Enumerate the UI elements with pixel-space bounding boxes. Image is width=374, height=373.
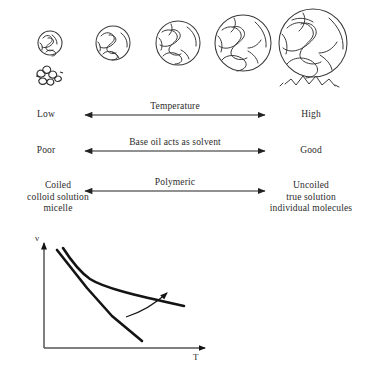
- plot-ylabel: ν: [35, 233, 39, 243]
- scale-center-label-solvency: Base oil acts as solvent: [129, 137, 221, 149]
- scale-right-label-temperature: High: [301, 109, 321, 121]
- coil-bubble-3: [156, 21, 200, 65]
- scale-left-label-line-1: Coiled: [27, 180, 89, 192]
- plot-curve-polymer-blended-oil: [63, 248, 184, 306]
- scale-center-label-temperature: Temperature: [150, 101, 200, 113]
- viscosity-temperature-plot: [44, 243, 205, 348]
- coil-bubble-1: [38, 31, 62, 56]
- scale-right-label-polymer-state: Uncoiled true solution individual molecu…: [270, 180, 352, 215]
- scale-left-label-temperature: Low: [37, 109, 55, 121]
- coil-bubble-5: [279, 9, 347, 78]
- plot-xlabel: T: [193, 352, 199, 362]
- coil-bubble-4: [215, 15, 271, 71]
- molecule-row: [36, 9, 347, 87]
- scale-left-label-polymer-state: Coiled colloid solution micelle: [27, 180, 89, 215]
- scale-left-label-line-3: micelle: [27, 203, 89, 215]
- scale-right-label-line-3: individual molecules: [270, 203, 352, 215]
- scale-left-label-line-2: colloid solution: [27, 192, 89, 204]
- scale-right-label-line-2: true solution: [270, 192, 352, 204]
- plot-curve-base-oil: [57, 250, 142, 341]
- scale-left-label-solvency: Poor: [37, 145, 56, 157]
- scale-center-label-polymer-state: Polymeric: [155, 177, 195, 189]
- scale-right-label-line-1: Uncoiled: [270, 180, 352, 192]
- micelle-cluster: [36, 66, 63, 85]
- scale-right-label-solvency: Good: [300, 145, 322, 157]
- coil-bubble-2: [96, 26, 130, 60]
